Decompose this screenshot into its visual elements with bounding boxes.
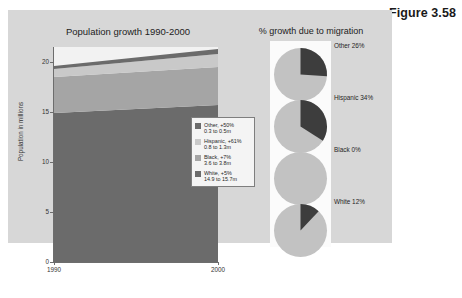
pie-chart-hispanic [272, 98, 329, 155]
x-tick-1990: 1990 [45, 266, 63, 273]
pie-label-white: White 12% [334, 198, 365, 205]
pie-slice-migration [301, 48, 328, 76]
pie-group: Other 26%Hispanic 34%Black 0%White 12% [270, 41, 400, 247]
pie-label-hispanic: Hispanic 34% [334, 94, 373, 101]
area-chart-title: Population growth 1990-2000 [48, 26, 208, 37]
legend-item-hispanic: Hispanic, +61%0.8 to 1.3m [195, 138, 251, 150]
legend-label-line2: 3.6 to 3.8m [204, 160, 231, 166]
y-tick-mark [50, 162, 53, 163]
y-tick-15: 15 [27, 108, 49, 115]
y-tick-10: 10 [27, 158, 49, 165]
pie-slice-remainder [274, 152, 327, 205]
legend-label-line2: 0.3 to 0.5m [204, 128, 234, 134]
y-tick-mark [50, 262, 53, 263]
legend-swatch-white [195, 171, 201, 177]
y-axis-line [53, 47, 54, 263]
legend-label-other: Other, +50%0.3 to 0.5m [204, 122, 234, 134]
y-axis-label: Population in millions [17, 87, 24, 177]
pie-chart-black [272, 150, 329, 207]
y-tick-20: 20 [27, 58, 49, 65]
x-tick-2000: 2000 [209, 266, 227, 273]
legend-swatch-black [195, 155, 201, 161]
figure-panel: Population growth 1990-2000 Population i… [8, 10, 392, 243]
legend-item-black: Black, +7%3.6 to 3.8m [195, 154, 251, 166]
legend-label-line2: 0.8 to 1.3m [204, 144, 242, 150]
y-tick-mark [50, 112, 53, 113]
x-axis-line [53, 262, 219, 263]
legend-swatch-hispanic [195, 139, 201, 145]
y-tick-5: 5 [27, 208, 49, 215]
pie-label-black: Black 0% [334, 146, 361, 153]
legend-item-white: White, +5%14.9 to 15.7m [195, 170, 251, 182]
legend-label-black: Black, +7%3.6 to 3.8m [204, 154, 231, 166]
y-tick-mark [50, 212, 53, 213]
legend-item-other: Other, +50%0.3 to 0.5m [195, 122, 251, 134]
y-tick-0: 0 [27, 258, 49, 265]
legend-label-white: White, +5%14.9 to 15.7m [204, 170, 237, 182]
pie-chart-other [272, 46, 329, 103]
x-tick-mark [54, 262, 55, 265]
x-tick-mark [218, 262, 219, 265]
figure-caption: Figure 3.58 [389, 6, 456, 20]
pie-section-title: % growth due to migration [236, 26, 386, 36]
legend-label-line2: 14.9 to 15.7m [204, 176, 237, 182]
legend-label-hispanic: Hispanic, +61%0.8 to 1.3m [204, 138, 242, 150]
figure-root: Figure 3.58 Population growth 1990-2000 … [0, 0, 462, 298]
area-chart-legend: Other, +50%0.3 to 0.5mHispanic, +61%0.8 … [191, 117, 255, 187]
pie-chart-white [272, 202, 329, 259]
pie-label-other: Other 26% [334, 42, 365, 49]
legend-swatch-other [195, 123, 201, 129]
y-tick-mark [50, 62, 53, 63]
